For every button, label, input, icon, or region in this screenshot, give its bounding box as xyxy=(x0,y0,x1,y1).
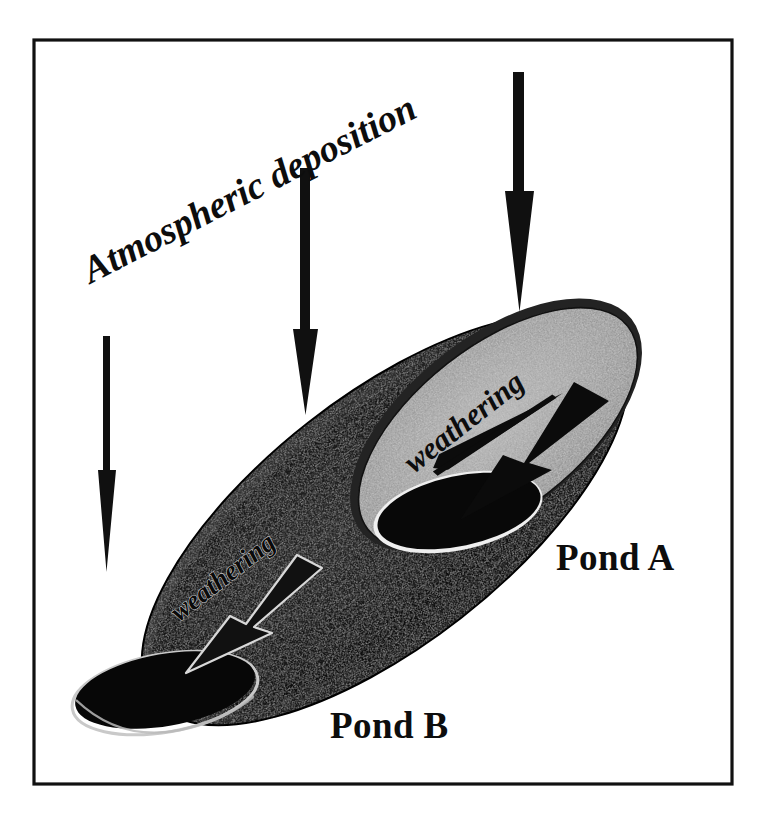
pond-diagram-svg: weathering weathering Atmosph xyxy=(0,0,766,818)
pond-b-label: Pond B xyxy=(330,705,449,746)
pond-a-label: Pond A xyxy=(556,537,675,578)
figure-root: weathering weathering Atmosph xyxy=(0,0,766,818)
